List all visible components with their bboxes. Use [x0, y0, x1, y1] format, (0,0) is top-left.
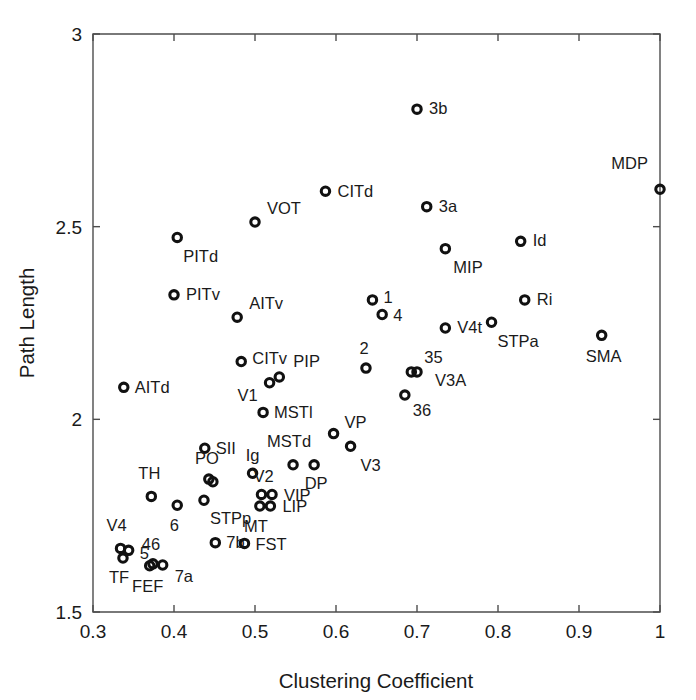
data-point: AITv [233, 294, 284, 322]
point-marker [147, 492, 155, 500]
point-marker [368, 296, 376, 304]
point-marker [200, 496, 208, 504]
point-marker [265, 379, 273, 387]
point-marker [275, 373, 283, 381]
scatter-plot-figure: 0.30.40.50.60.70.80.91 1.522.53 3bCITdMD… [0, 0, 696, 700]
point-label: 36 [413, 401, 431, 419]
x-tick-label: 0.4 [161, 621, 188, 642]
point-label: 3a [439, 197, 458, 215]
point-label: PIP [293, 352, 320, 370]
point-label: V3 [361, 456, 381, 474]
data-point: MDP [611, 154, 664, 194]
point-label: V1 [237, 386, 257, 404]
y-tick-label: 2 [71, 409, 82, 430]
data-point: MIP [441, 244, 483, 276]
point-label: TF [109, 568, 129, 586]
point-marker [362, 364, 370, 372]
point-marker [378, 310, 386, 318]
point-marker [516, 237, 524, 245]
point-marker [259, 408, 267, 416]
point-marker [401, 391, 409, 399]
point-marker [423, 202, 431, 210]
data-point: TH [138, 464, 160, 501]
plot-canvas: 0.30.40.50.60.70.80.91 1.522.53 3bCITdMD… [0, 0, 696, 700]
data-point: 2 [359, 339, 370, 372]
y-tick-label: 1.5 [56, 602, 82, 623]
point-marker [310, 461, 318, 469]
data-point: V3A [413, 368, 466, 390]
point-label: FEF [132, 577, 163, 595]
x-tick-label: 0.5 [242, 621, 268, 642]
point-marker [266, 502, 274, 510]
data-point: 6 [170, 501, 182, 534]
point-label: 35 [424, 348, 442, 366]
data-point: PITd [173, 233, 218, 265]
data-point: FST [240, 535, 286, 553]
data-point: MT [244, 502, 268, 536]
data-point: CITd [321, 182, 373, 200]
point-marker [441, 244, 449, 252]
point-label: SII [216, 439, 236, 457]
data-point: V1 [237, 379, 273, 405]
point-label: AITd [135, 378, 170, 396]
point-label: PO [195, 449, 219, 467]
point-label: TH [138, 464, 160, 482]
point-label: Ri [537, 290, 553, 308]
data-point: CITv [237, 349, 288, 367]
data-point: 36 [401, 391, 432, 420]
point-label: 46 [142, 535, 160, 553]
data-point: TF [109, 554, 129, 587]
point-label: PITv [186, 285, 221, 303]
data-point: V4t [441, 318, 482, 336]
point-marker [251, 218, 259, 226]
point-label: PITd [183, 247, 218, 265]
data-point: 3b [413, 99, 448, 117]
point-label: LIP [282, 497, 307, 515]
point-label: 6 [170, 516, 179, 534]
point-label: CITv [252, 349, 288, 367]
x-tick-label: 0.6 [323, 621, 349, 642]
data-point: V2 [253, 467, 273, 499]
x-tick-label: 0.3 [80, 621, 106, 642]
point-label: MDP [611, 154, 648, 172]
point-label: VOT [267, 199, 301, 217]
point-marker [268, 490, 276, 498]
y-tick-label: 2.5 [56, 217, 82, 238]
point-marker [211, 538, 219, 546]
point-marker [233, 313, 241, 321]
point-label: Ig [246, 446, 260, 464]
point-marker [173, 233, 181, 241]
point-marker [173, 501, 181, 509]
point-marker [597, 331, 605, 339]
point-marker [413, 105, 421, 113]
point-label: STPa [498, 332, 540, 350]
x-tick-label: 0.7 [404, 621, 430, 642]
point-marker [289, 461, 297, 469]
point-marker [120, 383, 128, 391]
data-points: 3bCITdMDP3aVOTIdPITdMIPPITvRi1AITv4STPaV… [106, 99, 664, 595]
point-marker [119, 554, 127, 562]
point-label: MIP [453, 258, 482, 276]
point-marker [256, 502, 264, 510]
point-label: CITd [337, 182, 373, 200]
point-label: V4 [106, 516, 126, 534]
point-marker [346, 442, 354, 450]
data-point: Ri [521, 290, 553, 308]
y-tick-label: 3 [71, 24, 82, 45]
x-axis-title: Clustering Coefficient [279, 669, 474, 692]
data-point: V4 [106, 516, 126, 553]
x-tick-labels: 0.30.40.50.60.70.80.91 [80, 621, 666, 642]
data-point: V3 [346, 442, 380, 474]
point-label: VP [345, 413, 367, 431]
point-label: V2 [253, 467, 273, 485]
data-point: 4 [378, 306, 402, 324]
point-label: V4t [457, 318, 482, 336]
point-marker [237, 357, 245, 365]
point-label: AITv [249, 294, 284, 312]
point-label: 1 [383, 288, 392, 306]
point-label: 2 [359, 339, 368, 357]
point-label: MSTl [274, 403, 313, 421]
y-axis-title: Path Length [15, 268, 38, 379]
data-point: STPa [487, 318, 539, 350]
point-marker [321, 187, 329, 195]
